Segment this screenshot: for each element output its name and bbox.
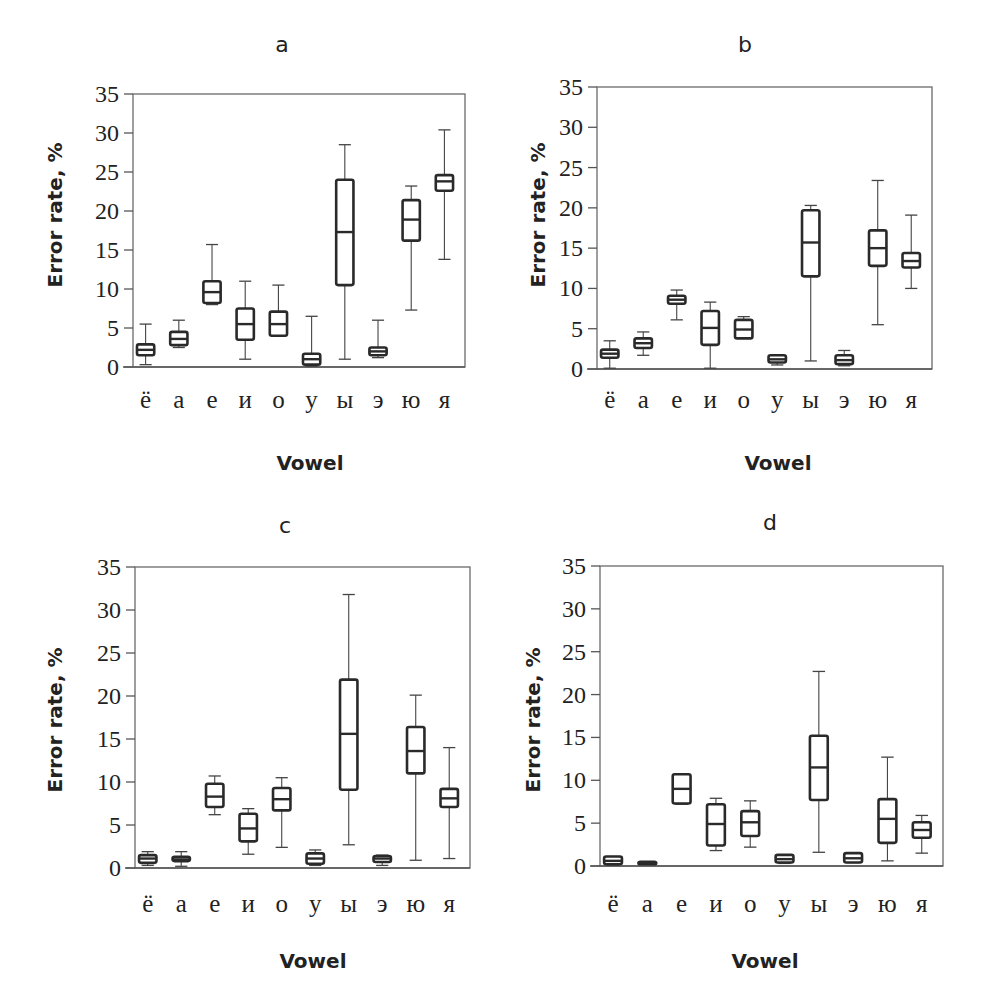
chart-panel-a: 05101520253035ёаеиоуыэюяaVowelError rate… — [43, 32, 465, 475]
x-category-label: ё — [142, 890, 153, 917]
x-category-label: я — [916, 890, 928, 917]
y-tick-label: 0 — [571, 356, 583, 382]
box-э — [374, 855, 391, 865]
chart-panel-c: 05101520253035ёаеиоуыэюяcVowelError rate… — [43, 513, 470, 973]
x-category-label: а — [638, 386, 649, 413]
y-tick-label: 10 — [97, 769, 121, 795]
y-tick-label: 25 — [95, 159, 119, 185]
y-tick-label: 15 — [559, 235, 583, 261]
y-axis-title: Error rate, % — [43, 647, 67, 792]
y-tick-label: 0 — [109, 855, 121, 881]
y-tick-label: 35 — [97, 554, 121, 580]
box-и — [707, 798, 725, 850]
box-у — [776, 855, 794, 864]
interquartile-box — [879, 799, 897, 843]
box-ы — [810, 671, 828, 852]
plot-frame — [135, 567, 470, 868]
y-tick-label: 30 — [562, 596, 586, 622]
box-я — [903, 215, 920, 288]
box-ы — [336, 145, 353, 360]
x-category-label: ы — [336, 386, 353, 413]
box-е — [673, 774, 691, 804]
y-tick-label: 25 — [97, 640, 121, 666]
y-axis-title: Error rate, % — [521, 647, 545, 792]
box-ё — [137, 324, 154, 365]
panel-title: a — [275, 32, 288, 57]
box-а — [170, 320, 187, 347]
x-category-label: о — [737, 386, 750, 413]
box-о — [273, 778, 290, 848]
x-category-label: о — [744, 890, 757, 917]
x-category-label: и — [242, 890, 255, 917]
box-ю — [403, 186, 420, 310]
box-у — [303, 316, 320, 366]
y-tick-label: 15 — [95, 237, 119, 263]
y-tick-label: 5 — [109, 812, 121, 838]
x-category-label: ё — [607, 890, 618, 917]
box-ы — [340, 595, 357, 845]
box-э — [369, 320, 386, 357]
box-е — [203, 245, 220, 305]
x-axis-title: Vowel — [279, 949, 346, 973]
y-tick-label: 20 — [95, 198, 119, 224]
y-tick-label: 15 — [97, 726, 121, 752]
box-plot-figure: 05101520253035ёаеиоуыэюяaVowelError rate… — [0, 0, 990, 1004]
box-ё — [139, 852, 156, 866]
x-category-label: е — [671, 386, 682, 413]
x-category-label: у — [305, 386, 318, 413]
y-tick-label: 5 — [107, 315, 119, 341]
box-ю — [869, 180, 886, 324]
x-category-label: о — [272, 386, 285, 413]
x-category-label: э — [839, 386, 850, 413]
y-tick-label: 10 — [562, 767, 586, 793]
box-о — [741, 801, 759, 847]
panel-title: c — [279, 513, 291, 538]
box-а — [638, 862, 656, 865]
x-category-label: и — [704, 386, 717, 413]
chart-panel-d: 05101520253035ёаеиоуыэюяdVowelError rate… — [521, 510, 943, 973]
x-axis-title: Vowel — [744, 451, 811, 475]
y-tick-label: 25 — [562, 639, 586, 665]
y-tick-label: 15 — [562, 724, 586, 750]
box-я — [441, 748, 458, 859]
y-tick-label: 35 — [562, 553, 586, 579]
x-category-label: э — [848, 890, 859, 917]
y-tick-label: 35 — [95, 81, 119, 107]
box-ё — [601, 341, 618, 368]
x-category-label: а — [176, 890, 187, 917]
box-о — [735, 317, 752, 339]
x-category-label: ю — [406, 890, 425, 917]
box-у — [769, 355, 786, 365]
y-tick-label: 10 — [559, 275, 583, 301]
x-category-label: э — [377, 890, 388, 917]
panel-title: d — [763, 510, 777, 535]
y-axis-title: Error rate, % — [43, 142, 67, 287]
x-category-label: е — [676, 890, 687, 917]
y-tick-label: 20 — [559, 195, 583, 221]
x-category-label: я — [905, 386, 917, 413]
x-category-label: а — [173, 386, 184, 413]
y-tick-label: 5 — [574, 810, 586, 836]
y-tick-label: 30 — [95, 120, 119, 146]
box-э — [844, 853, 862, 862]
y-tick-label: 30 — [559, 114, 583, 140]
y-tick-label: 5 — [571, 316, 583, 342]
x-category-label: ё — [140, 386, 151, 413]
y-tick-label: 25 — [559, 155, 583, 181]
y-tick-label: 0 — [107, 354, 119, 380]
y-tick-label: 0 — [574, 853, 586, 879]
plot-frame — [597, 87, 932, 369]
x-category-label: у — [309, 890, 322, 917]
y-tick-label: 20 — [562, 682, 586, 708]
y-tick-label: 10 — [95, 276, 119, 302]
x-category-label: ы — [340, 890, 357, 917]
x-category-label: ю — [878, 890, 897, 917]
x-category-label: ы — [810, 890, 827, 917]
interquartile-box — [206, 784, 223, 807]
box-а — [173, 852, 190, 867]
y-tick-label: 35 — [559, 74, 583, 100]
x-category-label: и — [239, 386, 252, 413]
x-category-label: и — [709, 890, 722, 917]
x-category-label: ю — [402, 386, 421, 413]
x-category-label: я — [439, 386, 451, 413]
